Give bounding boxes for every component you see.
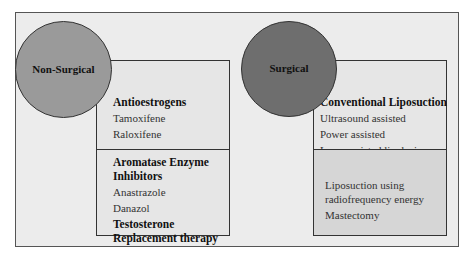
ultrasound-item: Ultrasound assisted [320,111,444,125]
power-item: Power assisted [320,127,444,141]
raloxifene-item: Raloxifene [113,127,186,141]
other-surgical-section: Liposuction using radiofrequency energy … [314,149,446,235]
conventional-liposuction-heading: Conventional Liposuction [320,95,444,109]
surgical-label: Surgical [269,62,308,74]
mastectomy-item: Mastectomy [325,208,442,222]
danazol-item: Danazol [113,201,225,215]
anastrazole-item: Anastrazole [113,185,225,199]
antioestrogens-section: Antioestrogens Tamoxifene Raloxifene [97,61,229,149]
radiofrequency-item: Liposuction using radiofrequency energy [325,178,442,206]
testosterone-heading: Testosterone Replacement therapy [113,217,225,245]
non-surgical-label: Non-Surgical [32,63,94,75]
tamoxifene-item: Tamoxifene [113,111,186,125]
non-surgical-circle: Non-Surgical [15,21,112,118]
aromatase-heading: Aromatase Enzyme Inhibitors [113,155,225,183]
antioestrogens-heading: Antioestrogens [113,95,186,109]
aromatase-section: Aromatase Enzyme Inhibitors Anastrazole … [97,149,229,235]
surgical-circle: Surgical [241,21,337,117]
non-surgical-box: Antioestrogens Tamoxifene Raloxifene Aro… [96,60,230,236]
